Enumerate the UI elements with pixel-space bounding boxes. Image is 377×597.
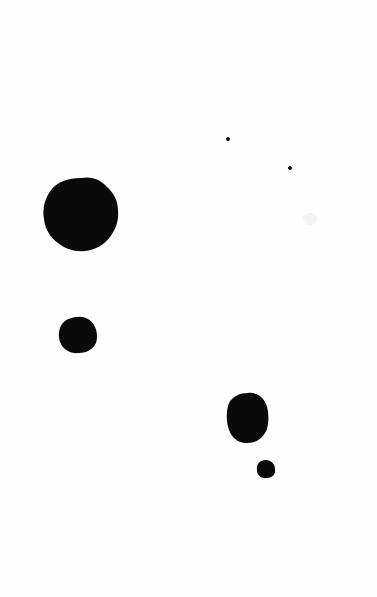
blot-small-lower-right — [257, 460, 275, 478]
ink-blot-canvas — [0, 0, 377, 597]
blot-medium-lower-right — [227, 393, 269, 443]
blot-large-upper-left — [43, 177, 118, 251]
smudge-faint-right — [303, 213, 317, 225]
page-background — [0, 0, 377, 597]
ink-blot-image — [0, 0, 377, 597]
blot-medium-left — [59, 317, 97, 353]
